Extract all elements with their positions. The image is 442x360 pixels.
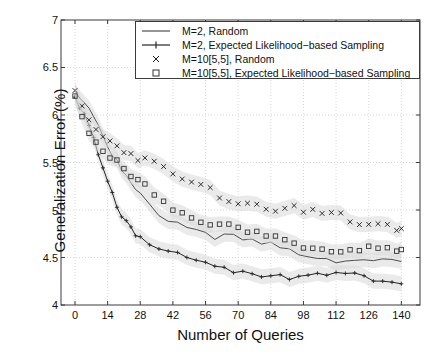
legend-x-marker-icon: [140, 52, 178, 66]
legend-line-plus-icon: [140, 38, 178, 52]
x-axis-label: Number of Queries: [61, 326, 420, 343]
chart-figure: Generalization Error (%) 7 6.5 6 5.5 5 4…: [0, 0, 442, 360]
y-tick-label-group: 7 6.5 6 5.5 5 4.5 4: [22, 0, 58, 360]
legend-entry-label: M=2, Random: [182, 25, 248, 37]
legend-entry-label: M=2, Expected Likelihood−based Sampling: [182, 39, 384, 51]
legend: M=2, Random M=2, Expected Likelihood−bas…: [135, 21, 420, 79]
legend-entry: M=2, Expected Likelihood−based Sampling: [136, 38, 419, 52]
y-tick-label: 6.5: [24, 61, 58, 73]
y-tick-label: 4: [24, 299, 58, 311]
legend-line-icon: [140, 24, 178, 38]
legend-square-marker-icon: [140, 66, 178, 80]
legend-entry: M=2, Random: [136, 24, 419, 38]
y-tick-label: 6: [24, 109, 58, 121]
legend-entry: M=10[5,5], Expected Likelihood−based Sam…: [136, 66, 419, 80]
legend-entry-label: M=10[5,5], Random: [182, 53, 275, 65]
legend-entry: M=10[5,5], Random: [136, 52, 419, 66]
y-tick-label: 4.5: [24, 252, 58, 264]
y-tick-label: 5.5: [24, 157, 58, 169]
legend-entry-label: M=10[5,5], Expected Likelihood−based Sam…: [182, 67, 410, 79]
x-tick-label: 140: [381, 309, 421, 321]
y-tick-label: 5: [24, 205, 58, 217]
y-tick-label: 7: [24, 14, 58, 26]
